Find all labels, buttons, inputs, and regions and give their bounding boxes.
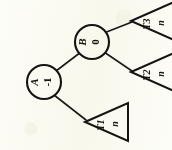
node-a-label: A — [28, 78, 40, 86]
node-a: A -1 — [27, 65, 61, 99]
subtree-t1: T1 n — [85, 103, 128, 141]
node-b: B 0 — [75, 25, 109, 59]
avl-tree-diagram: T3 n T2 n T1 n B 0 A -1 — [0, 0, 172, 150]
subtree-t2: T2 n — [131, 53, 172, 91]
node-b-balance: 0 — [89, 39, 101, 45]
triangle-t1-shape — [85, 103, 128, 141]
triangle-t3-height: n — [155, 20, 166, 26]
edge-b-to-t3 — [104, 22, 132, 33]
triangle-t2-height: n — [155, 71, 166, 77]
node-b-label: B — [76, 38, 88, 46]
diagram-canvas: T3 n T2 n T1 n B 0 A -1 — [0, 0, 172, 150]
triangle-t1-height: n — [109, 121, 120, 127]
edge-a-to-t1 — [54, 95, 86, 120]
edge-b-to-t2 — [104, 52, 132, 71]
triangle-t2-label: T2 — [141, 69, 152, 80]
node-a-balance: -1 — [41, 77, 53, 86]
edge-a-to-b — [56, 52, 81, 71]
triangle-t1-label: T1 — [95, 119, 106, 130]
subtree-t3: T3 n — [131, 2, 172, 40]
triangle-t3-label: T3 — [141, 18, 152, 29]
